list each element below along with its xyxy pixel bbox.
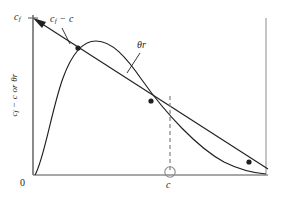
y-axis-title: cf − c or θr	[10, 59, 20, 131]
cf-minus-c-rest: − c	[57, 13, 74, 24]
y-axis-title-rest: − c or θr	[9, 73, 19, 110]
intersection-point-lower	[246, 159, 251, 164]
y-axis-title-main: c	[9, 112, 19, 116]
plot-svg	[0, 0, 282, 200]
y-axis-cf-subscript: f	[19, 15, 21, 23]
figure-container: cf cf − c θr cf − c or θr 0 c	[0, 0, 282, 200]
intersection-point-upper	[75, 45, 80, 50]
line-arrowhead-icon	[33, 18, 46, 28]
cf-minus-c-line	[36, 20, 268, 169]
y-axis-title-subscript: f	[12, 110, 20, 112]
theta-r-label: θr	[137, 40, 146, 50]
theta-r-curve	[35, 41, 266, 175]
y-axis-cf-label: cf	[14, 12, 21, 23]
intersection-point-middle	[148, 98, 153, 103]
cf-minus-c-label: cf − c	[50, 14, 74, 25]
x-axis-c-label: c	[166, 180, 171, 190]
cf-minus-c-leader-line	[62, 28, 70, 44]
origin-label: 0	[20, 178, 25, 188]
